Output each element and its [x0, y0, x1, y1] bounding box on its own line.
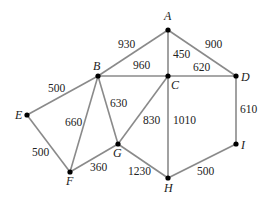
- edge-weight-label: 1010: [173, 114, 196, 126]
- node-label: I: [240, 138, 246, 152]
- edge-weight-label: 500: [48, 82, 66, 94]
- edge-b-g: [98, 76, 118, 144]
- node-c: [165, 73, 170, 78]
- edge-weight-label: 630: [110, 97, 128, 109]
- graph-diagram: 9304509009606205006606308301010610500360…: [0, 0, 266, 202]
- edge-weight-label: 960: [133, 59, 151, 71]
- node-label: H: [163, 181, 174, 195]
- edge-weight-label: 360: [90, 161, 108, 173]
- edge-weight-label: 500: [32, 146, 50, 158]
- edge-weight-label: 900: [205, 38, 223, 50]
- edge-weight-label: 660: [65, 116, 83, 128]
- edge-c-g: [118, 76, 168, 144]
- edges-group: [27, 30, 236, 178]
- edge-weight-label: 830: [143, 114, 161, 126]
- edge-weight-label: 620: [193, 61, 211, 73]
- edge-weight-label: 450: [173, 48, 191, 60]
- node-label: A: [163, 9, 172, 23]
- node-e: [24, 112, 29, 117]
- edge-weight-label: 610: [240, 103, 258, 115]
- node-a: [165, 27, 170, 32]
- edge-weight-label: 1230: [128, 165, 151, 177]
- edge-weight-label: 930: [118, 38, 136, 50]
- node-label: G: [113, 146, 122, 160]
- node-label: E: [14, 108, 23, 122]
- node-i: [233, 141, 238, 146]
- node-h: [165, 175, 170, 180]
- node-label: B: [93, 59, 101, 73]
- edge-weight-label: 500: [197, 165, 215, 177]
- node-b: [95, 73, 100, 78]
- node-d: [233, 73, 238, 78]
- edge-e-f: [27, 115, 70, 172]
- node-label: F: [65, 174, 74, 188]
- node-label: C: [171, 78, 180, 92]
- node-label: D: [240, 70, 250, 84]
